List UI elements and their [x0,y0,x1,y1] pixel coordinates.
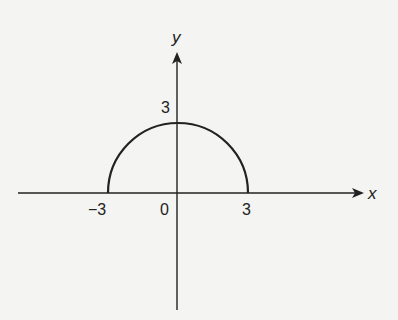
y-axis [172,52,182,310]
diagram-canvas: y x −3 0 3 3 [0,0,398,320]
tick-label-x-3: 3 [242,201,251,218]
tick-label-origin: 0 [160,201,169,218]
semicircle-curve [108,123,248,193]
y-axis-label: y [171,28,182,47]
x-axis [18,188,364,198]
x-axis-label: x [367,184,377,203]
tick-label-y-3: 3 [161,99,170,116]
tick-label-x-neg3: −3 [88,201,106,218]
